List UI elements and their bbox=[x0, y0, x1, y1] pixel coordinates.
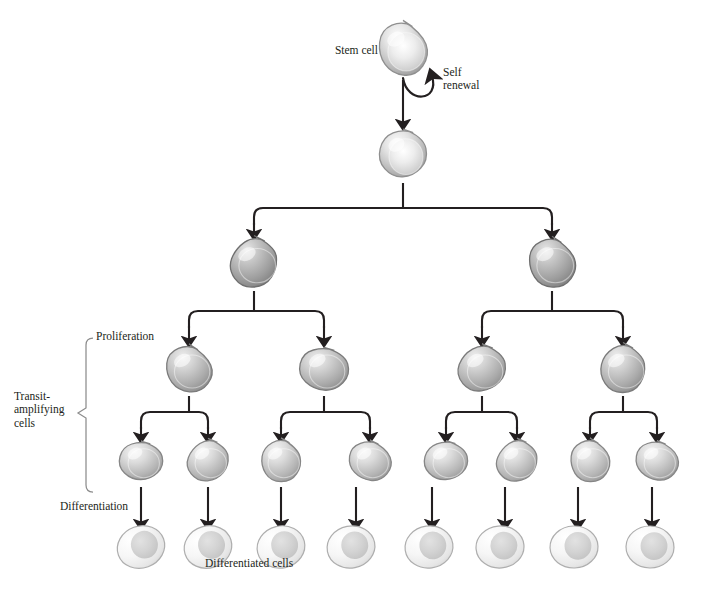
transit-amplifying-row-3 bbox=[119, 438, 678, 482]
cell-differentiated-6 bbox=[474, 524, 525, 570]
cell-transit-amplifying-8 bbox=[636, 441, 678, 481]
cell-highlight bbox=[534, 244, 556, 264]
cell-highlight bbox=[172, 351, 193, 370]
cell-nucleus bbox=[128, 449, 159, 478]
cell-membrane bbox=[379, 20, 427, 75]
transit-amplifying-row-1 bbox=[230, 236, 575, 288]
cell-membrane bbox=[549, 525, 598, 569]
label-transit-amplifying: Transit- amplifying cells bbox=[14, 390, 86, 430]
cell-highlight bbox=[126, 445, 145, 462]
cell-highlight bbox=[236, 244, 258, 264]
cell-nucleus bbox=[577, 449, 608, 478]
cell-membrane bbox=[530, 236, 576, 287]
cell-membrane bbox=[119, 441, 162, 480]
cell-transit-amplifying-2 bbox=[187, 438, 228, 481]
cell-nucleus bbox=[174, 355, 209, 388]
split-ta2d-to-ta3-bus bbox=[590, 412, 657, 429]
label-self-renewal: Self renewal bbox=[443, 66, 513, 93]
cell-transit-amplifying-2 bbox=[530, 236, 576, 287]
diagram-connectors bbox=[0, 0, 719, 606]
stem-cell-row bbox=[379, 20, 427, 75]
cell-nucleus bbox=[537, 248, 574, 282]
cell-membrane bbox=[300, 347, 349, 390]
cell-differentiated-8 bbox=[626, 526, 675, 569]
cell-membrane bbox=[626, 526, 675, 569]
stem-daughter-row bbox=[379, 129, 426, 177]
cell-membrane bbox=[167, 344, 213, 392]
label-differentiated-cells: Differentiated cells bbox=[205, 557, 345, 570]
cell-nucleus bbox=[239, 248, 276, 282]
cell-highlight bbox=[386, 135, 407, 154]
cell-nucleus bbox=[564, 532, 592, 561]
cell-transit-amplifying-7 bbox=[571, 438, 610, 482]
cell-membrane bbox=[230, 236, 276, 287]
differentiated-row bbox=[111, 519, 674, 575]
cell-membrane bbox=[458, 344, 505, 391]
cell-highlight bbox=[385, 29, 408, 50]
cell-membrane bbox=[496, 438, 536, 481]
cell-membrane bbox=[601, 343, 645, 393]
cell-transit-amplifying-1 bbox=[119, 441, 162, 480]
cell-nucleus bbox=[309, 355, 344, 388]
cell-highlight bbox=[193, 445, 212, 462]
cell-highlight bbox=[502, 445, 521, 462]
cell-nucleus bbox=[467, 355, 502, 388]
cell-transit-amplifying-5 bbox=[424, 441, 467, 480]
cell-transit-amplifying-6 bbox=[496, 438, 536, 481]
cell-nucleus bbox=[640, 532, 667, 560]
cell-differentiated-5 bbox=[402, 523, 455, 571]
cell-nucleus bbox=[388, 33, 425, 71]
split-daughter-to-ta1-bus bbox=[254, 208, 552, 225]
cell-nucleus bbox=[357, 449, 388, 478]
cell-transit-amplifying-3 bbox=[458, 344, 505, 391]
cell-membrane bbox=[424, 441, 467, 480]
transit-amplifying-row-2 bbox=[167, 343, 645, 393]
cell-nucleus bbox=[268, 449, 299, 478]
cell-transit-amplifying-1 bbox=[167, 344, 213, 392]
cell-membrane bbox=[349, 440, 391, 480]
cell-nucleus bbox=[433, 449, 464, 478]
cell-highlight bbox=[307, 351, 328, 370]
split-ta2a-to-ta3-bus bbox=[141, 412, 208, 429]
label-stem-cell: Stem cell bbox=[312, 44, 378, 57]
cell-differentiated-1 bbox=[111, 519, 170, 575]
cell-highlight bbox=[575, 445, 594, 462]
split-ta1a-to-ta2-bus bbox=[189, 311, 324, 328]
cell-stem-1 bbox=[379, 20, 427, 75]
label-differentiation: Differentiation bbox=[60, 500, 160, 513]
cell-membrane bbox=[111, 519, 170, 575]
cell-transit-amplifying-2 bbox=[300, 347, 349, 390]
cell-highlight bbox=[266, 445, 285, 462]
cell-membrane bbox=[187, 438, 228, 481]
cell-highlight bbox=[431, 445, 450, 462]
stem-cell-diagram: Stem cellSelf renewalProliferationTransi… bbox=[0, 0, 719, 606]
cell-membrane bbox=[379, 129, 426, 177]
cell-membrane bbox=[636, 441, 678, 481]
cell-membrane bbox=[474, 524, 525, 570]
label-proliferation: Proliferation bbox=[96, 330, 186, 343]
cell-highlight bbox=[355, 445, 374, 462]
cell-nucleus bbox=[418, 530, 448, 561]
cell-transit-amplifying-3 bbox=[262, 438, 301, 482]
split-ta2b-to-ta3-bus bbox=[281, 412, 370, 429]
self-renewal-arrow bbox=[403, 76, 433, 97]
cell-nucleus bbox=[504, 449, 535, 478]
cell-membrane bbox=[571, 438, 610, 482]
cell-nucleus bbox=[489, 531, 518, 561]
cell-transit-amplifying-4 bbox=[601, 343, 645, 393]
cell-differentiated-7 bbox=[549, 525, 598, 569]
cell-transit-amplifying-1 bbox=[230, 236, 276, 287]
cell-highlight bbox=[465, 351, 486, 370]
cell-nucleus bbox=[389, 139, 423, 175]
cell-nucleus bbox=[644, 449, 675, 478]
split-ta2c-to-ta3-bus bbox=[446, 412, 517, 429]
cell-nucleus bbox=[608, 355, 643, 388]
split-ta1b-to-ta2-bus bbox=[482, 311, 623, 328]
cell-membrane bbox=[262, 438, 301, 482]
cell-stem-1 bbox=[379, 129, 426, 177]
cell-highlight bbox=[642, 445, 661, 462]
cell-highlight bbox=[606, 351, 627, 370]
cell-nucleus bbox=[195, 449, 226, 478]
cell-membrane bbox=[402, 523, 455, 571]
cell-transit-amplifying-4 bbox=[349, 440, 391, 480]
